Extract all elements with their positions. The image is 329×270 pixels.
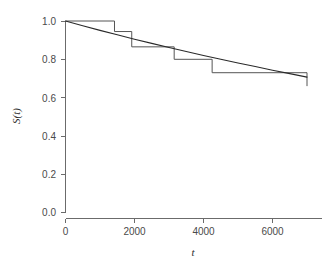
x-tick-label-0: 0 [63,226,69,237]
fitted-survival-curve [66,21,308,77]
x-tick-label-2000: 2000 [123,226,146,237]
survival-plot-svg: 1.0 0.8 0.6 0.4 0.2 0.0 S(t) 0 2000 4000… [0,0,329,270]
x-tick-label-4000: 4000 [192,226,215,237]
x-axis-group: 0 2000 4000 6000 t [63,219,322,259]
y-tick-label-0.6: 0.6 [42,93,56,104]
y-tick-label-0.4: 0.4 [42,131,56,142]
y-axis-group: 1.0 0.8 0.6 0.4 0.2 0.0 S(t) [10,16,66,218]
x-axis-title: t [191,246,195,258]
y-axis-title: S(t) [10,108,23,124]
y-tick-label-0.8: 0.8 [42,54,56,65]
x-tick-label-6000: 6000 [261,226,284,237]
y-tick-label-0.2: 0.2 [42,169,56,180]
data-series-group [66,21,308,86]
y-tick-label-0.0: 0.0 [42,207,56,218]
y-tick-label-1.0: 1.0 [42,16,56,27]
chart-figure: 1.0 0.8 0.6 0.4 0.2 0.0 S(t) 0 2000 4000… [0,0,329,270]
